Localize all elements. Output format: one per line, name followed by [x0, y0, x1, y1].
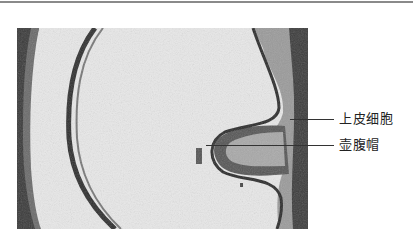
leader-line-epithelial-cells	[290, 119, 334, 120]
label-epithelial-cells: 上皮细胞	[339, 112, 393, 126]
micrograph-figure	[17, 28, 308, 229]
label-cupula: 壶腹帽	[339, 138, 380, 152]
micrograph-image	[17, 28, 308, 229]
leader-line-cupula	[206, 145, 334, 146]
top-rule	[0, 1, 413, 3]
